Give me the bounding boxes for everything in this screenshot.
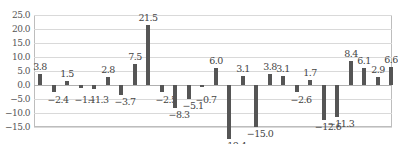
gridline: [34, 15, 392, 16]
data-label: −2.6: [290, 95, 311, 105]
bar: [362, 68, 366, 85]
bar: [133, 64, 137, 85]
bar: [187, 85, 191, 99]
data-label: −0.7: [195, 95, 216, 105]
data-label: 3.8: [263, 62, 277, 72]
bar: [119, 85, 123, 95]
bar: [349, 61, 353, 85]
bar: [241, 76, 245, 85]
bar: [295, 85, 299, 92]
data-label: 1.7: [303, 68, 317, 78]
data-label: −15.0: [247, 129, 274, 139]
bar: [214, 68, 218, 85]
data-label: 6.6: [384, 55, 398, 65]
data-label: 8.4: [344, 49, 358, 59]
bar: [335, 85, 339, 117]
bar: [106, 77, 110, 85]
data-label: −19.4: [220, 141, 247, 144]
bar: [38, 74, 42, 85]
bar: [254, 85, 258, 127]
bar: [79, 85, 83, 88]
y-tick-label: 20.0: [0, 24, 30, 34]
data-label: 3.1: [276, 64, 290, 74]
data-label: −8.3: [168, 110, 189, 120]
data-label: 2.9: [371, 65, 385, 75]
y-tick-label: 15.0: [0, 38, 30, 48]
y-tick-label: −5.0: [0, 94, 30, 104]
y-tick-label: 0.0: [0, 80, 30, 90]
y-tick-label: 5.0: [0, 66, 30, 76]
bar: [322, 85, 326, 120]
bar: [160, 85, 164, 92]
bar-chart: 25.020.015.010.05.00.0−5.0−10.0−15.03.8−…: [0, 0, 398, 144]
data-label: −1.3: [87, 95, 108, 105]
y-tick-label: 25.0: [0, 10, 30, 20]
bar: [308, 80, 312, 85]
gridline: [34, 71, 392, 72]
bar: [227, 85, 231, 139]
gridline: [34, 29, 392, 30]
bar: [173, 85, 177, 108]
data-label: −11.3: [328, 119, 355, 129]
bar: [52, 85, 56, 92]
bar: [389, 67, 393, 85]
data-label: 21.5: [138, 13, 157, 23]
bar: [92, 85, 96, 89]
y-tick-label: 10.0: [0, 52, 30, 62]
data-label: 3.1: [236, 64, 250, 74]
data-label: 7.5: [128, 52, 142, 62]
bar: [376, 77, 380, 85]
bar: [200, 85, 204, 87]
bar: [281, 76, 285, 85]
data-label: 2.8: [101, 65, 115, 75]
data-label: −3.7: [114, 97, 135, 107]
bar: [268, 74, 272, 85]
y-tick-label: −15.0: [0, 122, 30, 132]
data-label: −2.4: [47, 95, 68, 105]
bar: [146, 25, 150, 85]
data-label: 6.0: [209, 56, 223, 66]
data-label: 1.5: [60, 69, 74, 79]
y-tick-label: −10.0: [0, 108, 30, 118]
bar: [65, 81, 69, 85]
gridline: [34, 43, 392, 44]
data-label: 3.8: [33, 62, 47, 72]
data-label: 6.1: [357, 56, 371, 66]
